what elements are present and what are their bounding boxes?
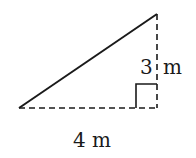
triangle-diagram: 3 m 4 m [0, 0, 196, 158]
base-label: 4 m [73, 128, 111, 152]
height-label-number: 3 [140, 55, 153, 79]
right-angle-marker [136, 84, 157, 108]
height-label-unit: m [163, 55, 182, 79]
